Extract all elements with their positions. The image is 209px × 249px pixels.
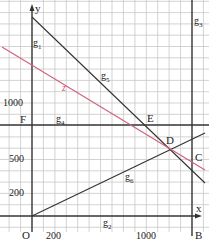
graph-canvas (0, 0, 209, 249)
y-axis-label: y (35, 3, 41, 14)
x-tick-1000: 1000 (136, 231, 156, 241)
y-tick-200: 200 (9, 188, 24, 198)
point-label-b: B (195, 230, 202, 241)
x-tick-200: 200 (46, 231, 61, 241)
origin-label: O (22, 230, 30, 241)
point-label-d: D (166, 135, 174, 146)
line-label-z: z (62, 83, 66, 93)
point-label-e: E (147, 113, 154, 124)
line-label-g6: g6 (125, 172, 134, 185)
y-tick-1000: 1000 (3, 98, 23, 108)
x-axis-label: x (196, 203, 202, 214)
point-label-c: C (195, 152, 202, 163)
line-g6 (32, 133, 205, 216)
y-tick-500: 500 (9, 154, 24, 164)
line-label-g1: g1 (33, 38, 42, 51)
optimization-diagram: y x O 200 1000 200 500 1000 F E D C B g1… (0, 0, 209, 249)
line-label-g5: g5 (101, 71, 110, 84)
y-axis-arrow-icon (30, 4, 35, 11)
line-label-g4: g4 (56, 114, 65, 127)
point-label-f: F (20, 114, 26, 125)
line-g5 (32, 17, 205, 183)
line-label-g2: g2 (103, 218, 112, 231)
line-label-g3: g3 (194, 16, 203, 29)
x-axis-arrow-icon (195, 214, 202, 219)
